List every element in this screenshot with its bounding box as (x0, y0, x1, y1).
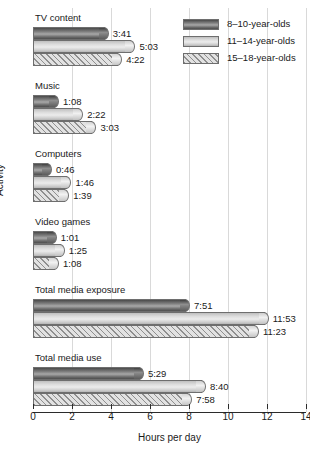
legend-swatch (183, 19, 219, 30)
bar[interactable] (33, 380, 202, 393)
bar-row: 5:29 (33, 367, 306, 380)
bar[interactable] (33, 121, 92, 134)
bar[interactable] (33, 53, 118, 66)
bar-group-label: Total media exposure (35, 284, 125, 295)
bar-group-label: Total media use (35, 352, 102, 363)
bar-end-cap (61, 176, 71, 189)
plot-area: TV content3:415:034:22Music1:082:223:03C… (33, 8, 306, 412)
x-axis-tick-label: 12 (252, 411, 282, 422)
legend-label: 15–18-year-olds (227, 52, 296, 63)
bar[interactable] (33, 367, 140, 380)
bar-group-label: Music (35, 80, 60, 91)
bar[interactable] (33, 257, 55, 270)
bar-end-cap (112, 53, 122, 66)
legend-label: 8–10-year-olds (227, 18, 290, 29)
bar-row: 1:39 (33, 189, 306, 202)
bar-value-label: 3:03 (100, 122, 119, 133)
bar-group: Music1:082:223:03 (33, 80, 306, 134)
legend-swatch (183, 53, 219, 64)
bar-value-label: 8:40 (210, 381, 229, 392)
bar-end-cap (86, 121, 96, 134)
bar-row: 7:51 (33, 299, 306, 312)
legend-swatch (183, 36, 219, 47)
bar[interactable] (33, 325, 255, 338)
bar-value-label: 5:03 (139, 41, 158, 52)
bar-row: 11:23 (33, 325, 306, 338)
bar-group-label: TV content (35, 12, 81, 23)
bar-group: Total media use5:298:407:58 (33, 352, 306, 406)
x-axis-tick-label: 8 (174, 411, 204, 422)
bar-group: Total media exposure7:5111:5311:23 (33, 284, 306, 338)
bar-chart: Activity TV content3:415:034:22Music1:08… (0, 0, 310, 474)
x-axis-tick-label: 4 (96, 411, 126, 422)
bar-row: 1:08 (33, 95, 306, 108)
bar[interactable] (33, 40, 131, 53)
bar-end-cap (49, 95, 59, 108)
bar-value-label: 1:08 (63, 96, 82, 107)
bar-end-cap (134, 367, 144, 380)
bar-value-label: 1:25 (69, 245, 88, 256)
bar-group-label: Video games (35, 216, 90, 227)
bar-value-label: 2:22 (87, 109, 106, 120)
bar-row: 11:53 (33, 312, 306, 325)
bar[interactable] (33, 244, 61, 257)
x-axis-tick (267, 404, 268, 409)
bar-value-label: 7:51 (194, 300, 213, 311)
bar-value-label: 7:58 (196, 394, 215, 405)
bar-value-label: 11:53 (273, 313, 296, 324)
bar-row: 1:01 (33, 231, 306, 244)
bar-end-cap (42, 163, 52, 176)
bar-row: 1:46 (33, 176, 306, 189)
bar-row: 2:22 (33, 108, 306, 121)
bar[interactable] (33, 95, 55, 108)
bar[interactable] (33, 231, 53, 244)
bar-row: 0:46 (33, 163, 306, 176)
bar-end-cap (55, 244, 65, 257)
x-axis-tick (189, 404, 190, 409)
x-axis-tick (111, 404, 112, 409)
bar[interactable] (33, 299, 186, 312)
bar-end-cap (49, 257, 59, 270)
bar-value-label: 4:22 (126, 54, 145, 65)
x-axis-tick (72, 404, 73, 409)
bar-end-cap (249, 325, 259, 338)
bar-value-label: 11:23 (263, 326, 286, 337)
bar[interactable] (33, 108, 79, 121)
bar-end-cap (180, 299, 190, 312)
bar-value-label: 1:01 (61, 232, 80, 243)
x-axis-tick (306, 404, 307, 409)
y-axis-label: Activity (0, 164, 5, 196)
bar-row: 1:08 (33, 257, 306, 270)
bar[interactable] (33, 27, 105, 40)
bar-value-label: 5:29 (148, 368, 167, 379)
bar-value-label: 1:46 (75, 177, 94, 188)
bar-end-cap (99, 27, 109, 40)
gridline (306, 8, 307, 412)
x-axis-tick-label: 6 (135, 411, 165, 422)
bar[interactable] (33, 176, 67, 189)
x-axis-tick-label: 14 (291, 411, 310, 422)
x-axis-tick (228, 404, 229, 409)
x-axis-tick-label: 2 (57, 411, 87, 422)
bar[interactable] (33, 189, 65, 202)
bar-row: 8:40 (33, 380, 306, 393)
bar-value-label: 1:08 (63, 258, 82, 269)
bar-value-label: 0:46 (56, 164, 75, 175)
x-axis-label: Hours per day (33, 432, 306, 443)
bar-end-cap (259, 312, 269, 325)
legend-label: 11–14-year-olds (227, 35, 295, 46)
x-axis-tick-label: 10 (213, 411, 243, 422)
bar-row: 1:25 (33, 244, 306, 257)
x-axis-tick (150, 404, 151, 409)
bar-value-label: 3:41 (113, 28, 132, 39)
bar-end-cap (73, 108, 83, 121)
bar-end-cap (182, 393, 192, 406)
bar[interactable] (33, 163, 48, 176)
bar-end-cap (59, 189, 69, 202)
bar-row: 7:58 (33, 393, 306, 406)
bar-end-cap (47, 231, 57, 244)
bar[interactable] (33, 312, 265, 325)
bar-group: Video games1:011:251:08 (33, 216, 306, 270)
bar-end-cap (125, 40, 135, 53)
bar-row: 3:03 (33, 121, 306, 134)
